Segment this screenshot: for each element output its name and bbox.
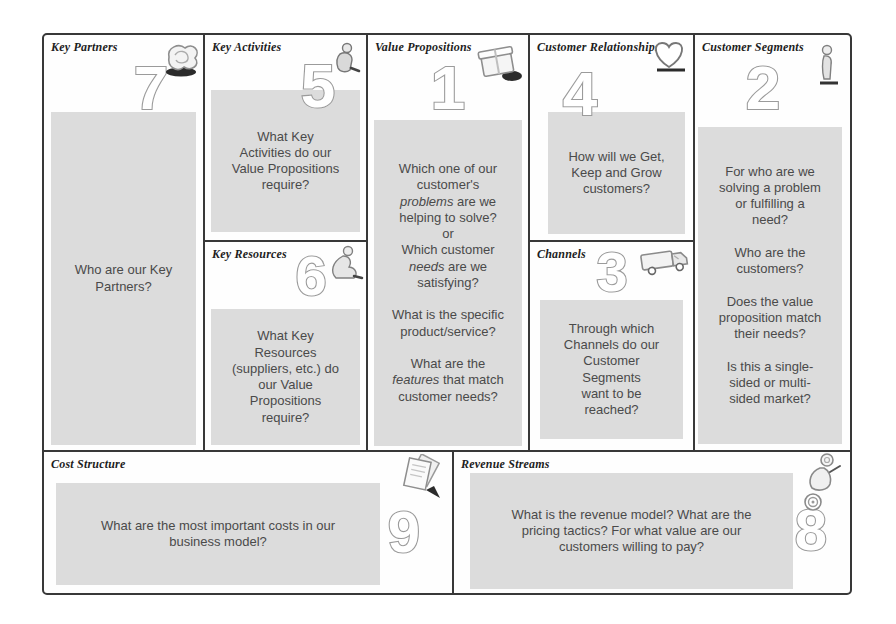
customer-relationships-note: How will we Get, Keep and Grow customers… bbox=[548, 112, 685, 234]
key-partners-note-text: Who are our Key Partners? bbox=[72, 260, 176, 297]
channels-note: Through which Channels do our Customer S… bbox=[540, 300, 683, 439]
key-activities-label: Key Activities bbox=[212, 40, 281, 55]
cost-structure-note: What are the most important costs in our… bbox=[56, 483, 380, 585]
revenue-streams-note: What is the revenue model? What are the … bbox=[470, 473, 793, 589]
statue-figure-icon bbox=[324, 244, 364, 292]
person-working-icon bbox=[326, 40, 362, 80]
key-resources-note-text: What Key Resources (suppliers, etc.) do … bbox=[229, 326, 342, 428]
paper-notes-icon bbox=[398, 454, 444, 504]
svg-text:3: 3 bbox=[596, 242, 627, 298]
value-propositions-note: Which one of our customer's problems are… bbox=[374, 120, 522, 446]
revenue-streams-label: Revenue Streams bbox=[461, 457, 550, 472]
section-customer-relationships: Customer Relationships 4 How will we Get… bbox=[530, 35, 693, 242]
channels-label: Channels bbox=[537, 247, 586, 262]
heart-icon bbox=[647, 35, 691, 75]
section-key-resources: Key Resources 6 What Key Resources (supp… bbox=[205, 242, 366, 450]
section-revenue-streams: Revenue Streams 8 What is the revenue mo… bbox=[454, 452, 850, 593]
section-value-propositions: Value Propositions 1 Which one of our cu… bbox=[368, 35, 530, 450]
cost-structure-number: 9 bbox=[382, 502, 426, 560]
key-partners-label: Key Partners bbox=[51, 40, 118, 55]
cost-structure-label: Cost Structure bbox=[51, 457, 126, 472]
value-propositions-note-text: Which one of our customer's problems are… bbox=[389, 159, 507, 407]
customer-relationships-number: 4 bbox=[556, 61, 604, 123]
knot-icon bbox=[157, 39, 201, 79]
column-activities-resources: Key Activities 5 What Key Activities do … bbox=[205, 35, 368, 450]
key-activities-note-text: What Key Activities do our Value Proposi… bbox=[229, 127, 342, 196]
section-key-partners: Key Partners 7 Who are our Key Partners? bbox=[44, 35, 205, 450]
customer-segments-number: 2 bbox=[739, 55, 787, 117]
channels-note-text: Through which Channels do our Customer S… bbox=[561, 319, 662, 421]
canvas-top-row: Key Partners 7 Who are our Key Partners?… bbox=[44, 35, 850, 450]
section-cost-structure: Cost Structure 9 What are the most impor… bbox=[44, 452, 454, 593]
customer-segments-note-text: For who are we solving a problem or fulf… bbox=[716, 162, 825, 410]
column-relationships-channels: Customer Relationships 4 How will we Get… bbox=[530, 35, 695, 450]
business-model-canvas: Key Partners 7 Who are our Key Partners?… bbox=[42, 33, 852, 595]
value-propositions-label: Value Propositions bbox=[375, 40, 472, 55]
gift-box-icon bbox=[476, 40, 524, 84]
money-bag-icon bbox=[796, 452, 846, 512]
value-propositions-number: 1 bbox=[424, 55, 472, 117]
key-resources-note: What Key Resources (suppliers, etc.) do … bbox=[211, 309, 360, 445]
delivery-truck-icon bbox=[639, 242, 691, 284]
customer-segments-label: Customer Segments bbox=[702, 40, 804, 55]
revenue-streams-note-text: What is the revenue model? What are the … bbox=[509, 505, 755, 558]
cost-structure-note-text: What are the most important costs in our… bbox=[98, 516, 338, 553]
canvas-bottom-row: Cost Structure 9 What are the most impor… bbox=[44, 450, 850, 593]
svg-text:6: 6 bbox=[295, 246, 326, 302]
svg-text:2: 2 bbox=[746, 55, 780, 117]
person-icon bbox=[814, 43, 842, 89]
svg-text:4: 4 bbox=[563, 61, 598, 123]
section-key-activities: Key Activities 5 What Key Activities do … bbox=[205, 35, 366, 242]
customer-segments-note: For who are we solving a problem or fulf… bbox=[698, 127, 842, 444]
channels-number: 3 bbox=[590, 242, 634, 298]
section-customer-segments: Customer Segments 2 For who are we solvi… bbox=[695, 35, 850, 450]
svg-text:1: 1 bbox=[431, 55, 465, 117]
section-channels: Channels 3 Through which Channels do our… bbox=[530, 242, 693, 450]
svg-text:9: 9 bbox=[388, 502, 420, 560]
customer-relationships-label: Customer Relationships bbox=[537, 40, 660, 55]
key-partners-note: Who are our Key Partners? bbox=[51, 112, 196, 445]
key-resources-label: Key Resources bbox=[212, 247, 287, 262]
customer-relationships-note-text: How will we Get, Keep and Grow customers… bbox=[565, 147, 667, 200]
